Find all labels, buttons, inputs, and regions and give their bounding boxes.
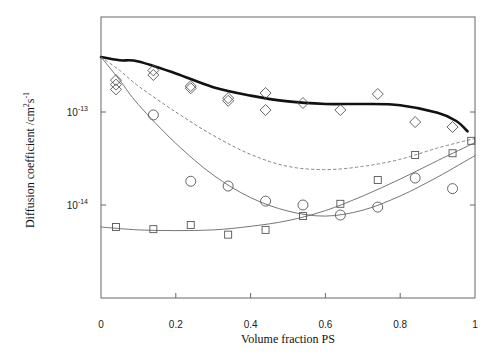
- fit-curves: [101, 57, 475, 231]
- x-tick-label: 0.2: [169, 319, 183, 330]
- x-tick-label: 1: [472, 319, 478, 330]
- y-tick-label: 10-14: [67, 198, 88, 211]
- circle-marker: [448, 184, 458, 194]
- circle-marker: [261, 196, 271, 206]
- y-tick-label: 10-13: [67, 105, 88, 118]
- square-marker: [374, 176, 381, 183]
- circle-marker: [223, 181, 233, 191]
- diamond-marker: [335, 105, 346, 116]
- x-tick-label: 0.8: [393, 319, 407, 330]
- circle-marker: [298, 200, 308, 210]
- diamond-marker: [372, 89, 383, 100]
- x-ticks: 00.20.40.60.81: [98, 293, 478, 330]
- circle-marker: [410, 173, 420, 183]
- thin-fit-circles-curve: [101, 57, 475, 216]
- square-marker: [225, 231, 232, 238]
- square-marker: [187, 221, 194, 228]
- circle-marker: [186, 176, 196, 186]
- diamond-marker: [148, 69, 159, 80]
- y-axis-title: Diffusion coefficient /cm2s-1: [22, 92, 37, 228]
- x-tick-label: 0.6: [318, 319, 332, 330]
- square-marker: [112, 224, 119, 231]
- diamond-marker: [260, 105, 271, 116]
- circle-marker: [148, 110, 158, 120]
- y-ticks: 10-1310-14: [67, 105, 475, 211]
- diamond-marker: [447, 121, 458, 132]
- chart: 00.20.40.60.81 10-1310-14 Volume fractio…: [0, 0, 493, 362]
- x-axis-title: Volume fraction PS: [241, 332, 335, 346]
- square-marker: [262, 226, 269, 233]
- square-marker: [150, 226, 157, 233]
- diamond-marker: [410, 117, 421, 128]
- x-tick-label: 0.4: [244, 319, 258, 330]
- circle-marker: [373, 202, 383, 212]
- x-tick-label: 0: [98, 319, 104, 330]
